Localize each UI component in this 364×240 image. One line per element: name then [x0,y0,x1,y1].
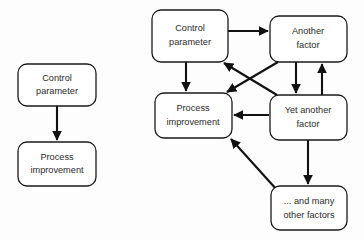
node-label-line2: improvement [166,117,220,127]
node-label-line1: Process [176,103,210,113]
node-label-line1: Another [292,26,324,36]
node-right-control-parameter[interactable]: Control parameter [152,10,228,62]
node-box[interactable] [270,16,347,62]
node-label-line2: parameter [169,37,211,47]
node-label-line2: factor [297,119,320,129]
edge-another-to-process-diagonal [227,62,278,92]
node-box[interactable] [152,10,228,62]
node-box[interactable] [155,93,232,138]
node-label-line1: ... and many [284,196,335,206]
node-label-line1: Control [42,73,72,83]
node-box[interactable] [18,64,96,106]
node-label-line2: parameter [36,86,78,96]
node-left-control-parameter[interactable]: Control parameter [18,64,96,106]
node-right-process-improvement[interactable]: Process improvement [155,93,232,138]
node-box[interactable] [271,186,347,230]
diagram-canvas: Control parameter Process improvement [0,0,364,240]
node-box[interactable] [18,142,96,186]
node-label-line2: factor [297,40,320,50]
node-right-another-factor[interactable]: Another factor [270,16,347,62]
node-left-process-improvement[interactable]: Process improvement [18,142,96,186]
node-label-line2: improvement [30,165,84,175]
node-right-yet-another-factor[interactable]: Yet another factor [270,95,347,140]
node-right-many-other-factors[interactable]: ... and many other factors [271,186,347,230]
node-label-line1: Process [40,152,74,162]
left-diagram: Control parameter Process improvement [18,64,96,186]
right-diagram: Control parameter Another factor Process… [152,10,347,230]
node-label-line1: Control [175,23,205,33]
node-label-line2: other factors [283,210,334,220]
edge-many-others-to-process-diagonal [231,139,277,190]
node-box[interactable] [270,95,347,140]
node-label-line1: Yet another [285,105,332,115]
